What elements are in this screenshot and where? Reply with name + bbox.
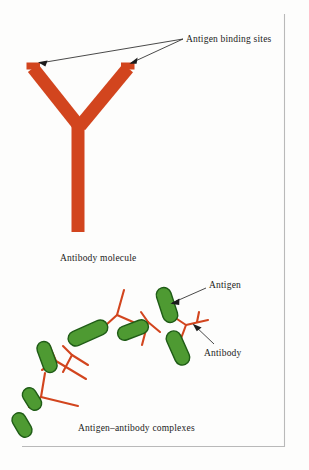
- antigen-binding-sites-label: Antigen binding sites: [186, 34, 272, 44]
- figure-frame: Antigen binding sites Antibody molecule: [0, 0, 309, 470]
- antigen-antibody-complexes-panel: Antigen Antibody Antigen–antibody comple…: [9, 280, 241, 440]
- arrowhead-antibody: [193, 324, 202, 331]
- antibody-6-branch: [197, 312, 199, 322]
- antibody-4-arm-b: [117, 290, 124, 315]
- antibody-5-stem: [148, 322, 160, 332]
- antibody-molecule-caption: Antibody molecule: [60, 253, 136, 263]
- antibody-left-arm-tip: [27, 63, 41, 70]
- antigen-capsule-1: [20, 385, 45, 413]
- antigen-capsule-6: [164, 329, 192, 368]
- antibody-3-stem: [72, 355, 88, 365]
- complex-antigens: [9, 286, 192, 440]
- antibody-3-arm-a: [63, 346, 72, 355]
- antibody-molecule-panel: Antigen binding sites Antibody molecule: [27, 34, 272, 263]
- antibody-1-arm-a: [41, 373, 45, 397]
- antigen-capsule-5: [154, 286, 179, 325]
- antibody-4-stem: [117, 315, 133, 322]
- antibody-right-arm: [80, 68, 128, 126]
- antibody-y-shape: [33, 68, 128, 232]
- antibody-4-arm-a: [106, 315, 117, 325]
- antigen-leader: [170, 288, 206, 305]
- antigen-label: Antigen: [209, 280, 241, 290]
- antigen-capsule-2: [35, 340, 59, 375]
- leader-to-right-binding-site: [131, 39, 183, 63]
- antibody-2-stem: [56, 361, 86, 379]
- complex-antibody-4: [106, 290, 133, 325]
- antigen-binding-sites-leaders: [38, 39, 183, 67]
- frame-border: [22, 14, 285, 447]
- figure-page: Antigen binding sites Antibody molecule: [0, 0, 309, 470]
- antibody-leader: [193, 324, 214, 344]
- antigen-antibody-complexes-caption: Antigen–antibody complexes: [78, 423, 195, 433]
- antibody-label: Antibody: [204, 348, 242, 358]
- leader-to-left-binding-site: [40, 39, 183, 63]
- antibody-1-stem: [41, 397, 78, 406]
- immunology-diagram: Antigen binding sites Antibody molecule: [0, 0, 309, 470]
- antigen-capsule-3: [66, 318, 110, 349]
- antigen-capsule-7: [9, 410, 34, 440]
- antibody-left-arm: [33, 68, 79, 126]
